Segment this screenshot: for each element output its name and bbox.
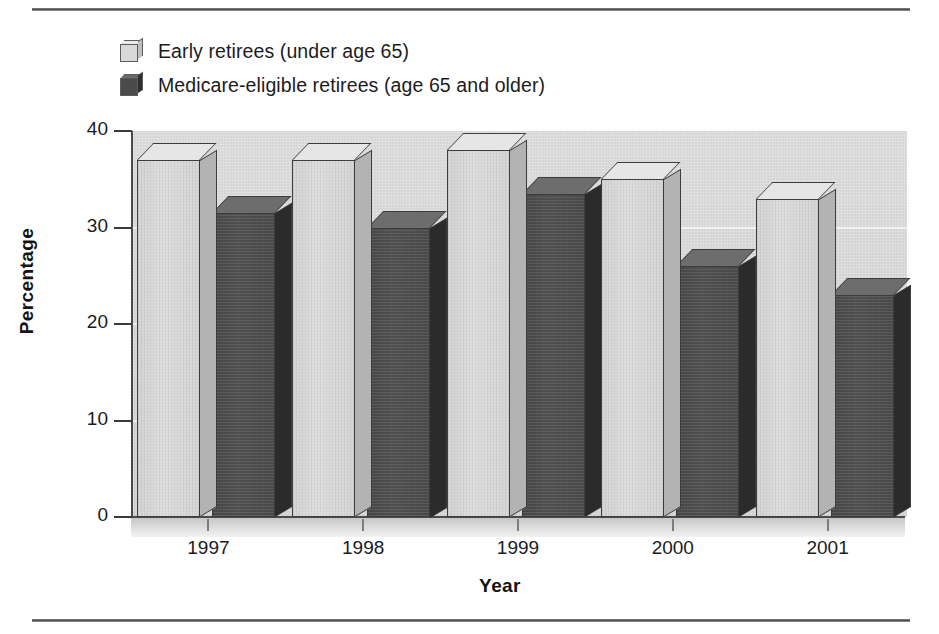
y-tick-label-10: 10 [50,408,108,430]
bar-front-face [676,266,739,517]
x-tick-1997 [207,519,209,531]
bar-front-face [292,160,355,517]
bar-front-face [831,295,894,517]
y-tick-label-0: 0 [50,504,108,526]
y-axis-title: Percentage [16,221,38,341]
bar-2001-series1 [756,199,819,517]
bar-1998-series1 [292,160,355,517]
bar-front-face [137,160,200,517]
y-tick-label-40: 40 [50,118,108,140]
y-tick-20 [114,323,132,325]
bar-side-face [430,217,447,517]
x-tick-1999 [517,519,519,531]
bar-1998-series2 [367,228,430,518]
bar-side-face [739,256,756,517]
bar-1997-series2 [212,213,275,517]
bar-2000-series2 [676,266,739,517]
bar-front-face [212,213,275,517]
bar-front-face [601,179,664,517]
bar-front-face [367,228,430,518]
y-tick-label-20: 20 [50,311,108,333]
y-tick-10 [114,420,132,422]
bar-side-face [664,169,681,517]
x-tick-2001 [827,519,829,531]
x-tick-label-2001: 2001 [768,537,888,559]
bar-side-face [275,203,292,517]
x-tick-label-1999: 1999 [458,537,578,559]
bar-front-face [447,150,510,517]
y-tick-0 [114,516,132,518]
bar-2000-series1 [601,179,664,517]
bar-1999-series2 [522,194,585,517]
bar-side-face [200,150,217,517]
bar-front-face [522,194,585,517]
bar-front-face [756,199,819,517]
y-tick-40 [114,130,132,132]
x-tick-label-1997: 1997 [148,537,268,559]
x-tick-1998 [362,519,364,531]
bar-2001-series2 [831,295,894,517]
bar-chart: Percentage Year 010203040 19971998199920… [0,0,939,634]
bar-side-face [819,188,836,517]
y-tick-label-30: 30 [50,215,108,237]
bar-side-face [355,150,372,517]
x-axis-title: Year [120,575,880,597]
bar-1999-series1 [447,150,510,517]
bar-side-face [585,184,602,517]
bar-1997-series1 [137,160,200,517]
bar-side-face [510,140,527,517]
y-tick-30 [114,227,132,229]
x-tick-label-2000: 2000 [613,537,733,559]
x-tick-label-1998: 1998 [303,537,423,559]
bar-side-face [894,285,911,517]
x-tick-2000 [672,519,674,531]
